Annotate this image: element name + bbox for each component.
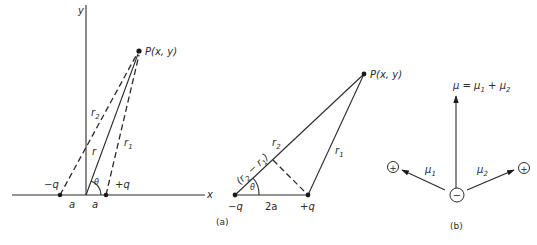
caption-a: (a) — [216, 217, 229, 227]
r2-label: r2 — [272, 137, 281, 151]
negative-charge-dot — [233, 193, 238, 198]
left-panel: x y θ P(x, y) −q +q a a r2 r r1 — [12, 5, 213, 210]
theta-label: θ — [94, 178, 99, 187]
separation-label: 2a — [265, 201, 278, 212]
negative-charge-symbol: − — [453, 190, 461, 201]
resultant-mu-label: μ = μ1 + μ2 — [452, 80, 511, 94]
mu2-arrow — [467, 170, 514, 190]
left-positive-charge-circle: + — [388, 162, 399, 173]
mu1-label: μ1 — [424, 164, 436, 178]
r-line — [86, 54, 138, 195]
negative-charge-label: −q — [44, 179, 59, 190]
left-positive-charge-symbol: + — [389, 163, 397, 173]
panel-b: μ = μ1 + μ2 μ1 μ2 − + + (b) — [388, 80, 530, 231]
y-axis-label: y — [77, 5, 85, 16]
right-positive-charge-symbol: + — [520, 164, 528, 174]
point-p-label: P(x, y) — [370, 69, 402, 80]
positive-charge-dot — [306, 193, 311, 198]
r1-label: r1 — [335, 145, 344, 159]
r2-dashed-line — [60, 54, 137, 195]
theta-label: θ — [250, 183, 255, 192]
dipole-figure: x y θ P(x, y) −q +q a a r2 r r1 θ P(x, — [0, 0, 537, 245]
r2-line — [235, 74, 364, 195]
r2-label: r2 — [91, 107, 100, 121]
positive-charge-label: +q — [115, 179, 130, 190]
r1-line — [308, 74, 364, 195]
positive-charge-label: +q — [300, 201, 315, 212]
x-axis-label: x — [206, 189, 213, 200]
mu1-arrow — [402, 170, 445, 190]
distance-a-right: a — [92, 199, 98, 210]
negative-charge-circle: − — [450, 188, 464, 202]
point-p-label: P(x, y) — [145, 46, 177, 57]
distance-a-left: a — [69, 199, 75, 210]
caption-b: (b) — [450, 221, 463, 231]
mu2-label: μ2 — [476, 164, 488, 178]
r1-label: r1 — [124, 137, 133, 151]
r-label: r — [92, 146, 97, 157]
point-p-dot — [136, 48, 141, 53]
panel-a: θ P(x, y) −q +q 2a r2 r1 (r2 − r1) (a) — [216, 69, 402, 227]
r1-dashed-line — [106, 55, 139, 195]
perpendicular-dashed-line — [273, 160, 306, 193]
positive-charge-dot — [104, 193, 109, 198]
negative-charge-dot — [58, 193, 63, 198]
point-p-dot — [362, 72, 367, 77]
negative-charge-label: −q — [228, 201, 243, 212]
right-positive-charge-circle: + — [519, 163, 530, 174]
